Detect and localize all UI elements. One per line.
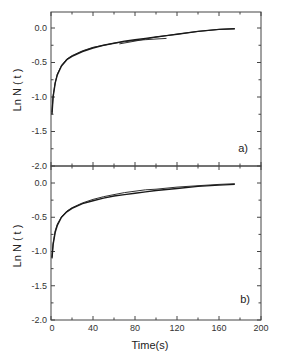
panel-b-label: b) [240, 293, 250, 305]
ytick-a-2: -1.0 [31, 92, 47, 102]
panel-b-curves [52, 184, 235, 259]
ytick-b-4: -2.0 [31, 315, 47, 325]
xtick-2: 80 [130, 323, 140, 333]
series-fit [52, 38, 167, 112]
series-experimental [52, 184, 235, 258]
panel-b-y-axis-title: Ln N ( t ) [11, 225, 23, 268]
ytick-b-0: 0.0 [34, 178, 47, 188]
panel-a-label: a) [238, 142, 248, 154]
panel-a-y-axis-title: Ln N ( t ) [11, 69, 23, 112]
ytick-b-1: -0.5 [31, 212, 47, 222]
xtick-3: 120 [169, 323, 184, 333]
panel-a-frame [51, 12, 261, 166]
x-axis-title: Time(s) [132, 339, 169, 351]
xtick-5: 200 [253, 323, 268, 333]
xtick-1: 40 [88, 323, 98, 333]
panel-a-curves [52, 29, 235, 115]
x-ticks: 0 40 80 120 160 200 [49, 323, 268, 333]
xtick-0: 0 [49, 323, 54, 333]
ytick-a-4: -2.0 [31, 161, 47, 171]
series-experimental [52, 29, 235, 115]
xtick-4: 160 [211, 323, 226, 333]
ytick-a-0: 0.0 [34, 23, 47, 33]
series-fit [52, 184, 235, 257]
ytick-b-3: -1.5 [31, 281, 47, 291]
ytick-a-3: -1.5 [31, 126, 47, 136]
ytick-b-2: -1.0 [31, 246, 47, 256]
ytick-a-1: -0.5 [31, 57, 47, 67]
panel-a-y-ticks: 0.0 -0.5 -1.0 -1.5 -2.0 [31, 23, 47, 171]
figure: 0.0 -0.5 -1.0 -1.5 -2.0 0.0 -0.5 -1.0 -1… [0, 0, 281, 360]
series-fit-2 [119, 29, 235, 44]
panel-b-y-ticks: 0.0 -0.5 -1.0 -1.5 -2.0 [31, 178, 47, 325]
